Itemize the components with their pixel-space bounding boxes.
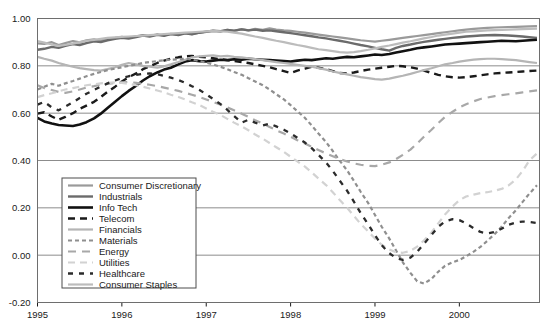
- legend-label: Consumer Discretionary: [99, 180, 201, 191]
- legend-label: Industrials: [99, 191, 143, 202]
- legend-label: Consumer Staples: [99, 279, 177, 290]
- legend-label: Telecom: [99, 213, 134, 224]
- y-tick-label: 0.20: [12, 202, 31, 213]
- x-tick-label: 1999: [364, 309, 385, 320]
- x-axis-tick-labels: 199519961997199819992000: [27, 309, 470, 320]
- line-chart: 1.000.800.600.400.200.00-0.20 1995199619…: [0, 0, 550, 328]
- series-line: [38, 55, 537, 79]
- legend-label: Energy: [99, 246, 129, 257]
- x-tick-label: 1998: [280, 309, 301, 320]
- legend-label: Materials: [99, 235, 138, 246]
- y-tick-label: 0.40: [12, 155, 31, 166]
- legend-label: Financials: [99, 224, 142, 235]
- x-tick-label: 1996: [111, 309, 132, 320]
- y-tick-label: 0.80: [12, 60, 31, 71]
- y-tick-label: 0.00: [12, 250, 31, 261]
- chart-legend: Consumer DiscretionaryIndustrialsInfo Te…: [62, 178, 201, 290]
- legend-label: Healthcare: [99, 268, 145, 279]
- legend-label: Utilities: [99, 257, 130, 268]
- x-axis-tick-marks: [38, 303, 460, 307]
- y-tick-label: 0.60: [12, 108, 31, 119]
- y-tick-label: 1.00: [12, 13, 31, 24]
- legend-label: Info Tech: [99, 202, 137, 213]
- x-tick-label: 1997: [196, 309, 217, 320]
- y-tick-label: -0.20: [9, 297, 31, 308]
- chart-canvas: 1.000.800.600.400.200.00-0.20 1995199619…: [0, 0, 550, 328]
- y-axis-tick-labels: 1.000.800.600.400.200.00-0.20: [9, 13, 31, 308]
- x-tick-label: 1995: [27, 309, 48, 320]
- x-tick-label: 2000: [449, 309, 470, 320]
